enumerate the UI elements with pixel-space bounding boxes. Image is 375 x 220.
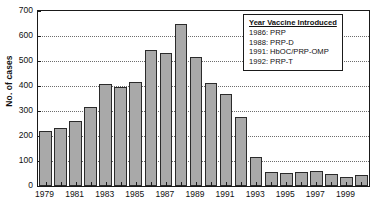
y-tick-label: 0	[0, 180, 33, 190]
x-tick-mark	[301, 182, 302, 186]
x-tick-mark	[76, 182, 77, 186]
x-tick-mark	[346, 182, 347, 186]
legend-entry: 1992: PRP-T	[249, 57, 337, 66]
x-tick-label: 1987	[155, 189, 174, 199]
x-tick-label: 1985	[125, 189, 144, 199]
legend-entries: 1986: PRP1988: PRP-D1991: HbOC/PRP-OMP19…	[249, 28, 337, 66]
x-tick-label: 1993	[246, 189, 265, 199]
x-tick-mark	[91, 182, 92, 186]
y-tick-label: 700	[0, 5, 33, 15]
x-tick-label: 1999	[336, 189, 355, 199]
x-tick-mark	[256, 182, 257, 186]
x-tick-label: 1989	[186, 189, 205, 199]
x-tick-mark	[181, 182, 182, 186]
legend-entry: 1991: HbOC/PRP-OMP	[249, 47, 337, 56]
x-tick-label: 1991	[216, 189, 235, 199]
y-tick-label: 400	[0, 80, 33, 90]
x-tick-mark	[61, 182, 62, 186]
y-tick-label: 300	[0, 105, 33, 115]
x-tick-label: 1979	[35, 189, 54, 199]
x-tick-mark	[241, 182, 242, 186]
legend-title: Year Vaccine Introduced	[249, 18, 337, 27]
y-tick-label: 200	[0, 130, 33, 140]
chart-figure: No. of cases 197919811983198519871989199…	[0, 0, 375, 220]
x-tick-label: 1995	[276, 189, 295, 199]
x-tick-mark	[121, 182, 122, 186]
x-tick-mark	[271, 182, 272, 186]
x-tick-mark	[151, 182, 152, 186]
y-tick-label: 600	[0, 30, 33, 40]
x-tick-mark	[361, 182, 362, 186]
x-tick-mark	[331, 182, 332, 186]
x-tick-mark	[46, 182, 47, 186]
x-tick-mark	[106, 182, 107, 186]
x-tick-mark	[316, 182, 317, 186]
legend-box: Year Vaccine Introduced 1986: PRP1988: P…	[243, 14, 343, 71]
x-tick-mark	[226, 182, 227, 186]
y-tick-label: 100	[0, 155, 33, 165]
x-tick-mark	[211, 182, 212, 186]
x-tick-mark	[196, 182, 197, 186]
y-tick-mark	[38, 186, 41, 187]
x-tick-mark	[286, 182, 287, 186]
x-tick-label: 1983	[95, 189, 114, 199]
x-tick-mark	[136, 182, 137, 186]
y-tick-label: 500	[0, 55, 33, 65]
x-tick-label: 1997	[306, 189, 325, 199]
legend-entry: 1988: PRP-D	[249, 38, 337, 47]
x-tick-label: 1981	[65, 189, 84, 199]
x-tick-mark	[166, 182, 167, 186]
legend-entry: 1986: PRP	[249, 28, 337, 37]
